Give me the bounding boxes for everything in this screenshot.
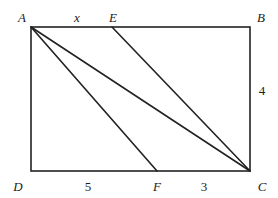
measure-label-ae: x: [74, 11, 80, 24]
measure-label-df: 5: [85, 180, 92, 193]
vertex-label-e: E: [109, 11, 117, 24]
diagram-canvas: [0, 0, 278, 198]
vertex-label-c: C: [258, 180, 267, 193]
segment-af: [31, 27, 157, 171]
measure-label-bc: 4: [259, 84, 266, 97]
vertex-label-d: D: [13, 180, 22, 193]
geometry-diagram: A x E B 4 D 5 F 3 C: [0, 0, 278, 198]
vertex-label-f: F: [153, 180, 161, 193]
vertex-label-a: A: [18, 11, 26, 24]
vertex-label-b: B: [257, 11, 265, 24]
measure-label-fc: 3: [201, 180, 208, 193]
segment-ec: [112, 27, 250, 171]
segment-ac: [31, 27, 250, 171]
